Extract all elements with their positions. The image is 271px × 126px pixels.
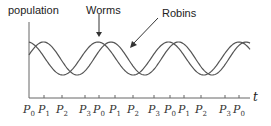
x-tick-label: P3 — [79, 103, 91, 118]
worms-arrowhead — [96, 32, 102, 37]
x-tick-label: P0 — [164, 103, 176, 118]
x-tick-label: P0 — [93, 103, 105, 118]
x-tick-label: P3 — [219, 103, 231, 118]
x-tick-label: P1 — [38, 103, 50, 118]
x-tick-label: P0 — [233, 103, 245, 118]
robins-arrow — [133, 18, 158, 44]
predator-prey-diagram: population Worms Robins t P0P1P2P3P0P1P2… — [0, 0, 271, 126]
worms-label: Worms — [86, 4, 121, 16]
x-tick-label: P3 — [148, 103, 160, 118]
x-tick-label: P2 — [127, 103, 139, 118]
robins-curve — [29, 42, 250, 75]
robins-label: Robins — [162, 7, 196, 19]
y-axis-label: population — [8, 4, 59, 16]
x-tick-label: P2 — [195, 103, 207, 118]
robins-arrowhead — [130, 41, 137, 48]
worms-curve — [29, 42, 250, 75]
x-tick-label: P1 — [178, 103, 190, 118]
x-tick-label: P0 — [23, 103, 35, 118]
x-tick-label: P1 — [109, 103, 121, 118]
x-tick-label: P2 — [56, 103, 68, 118]
x-axis-label: t — [253, 90, 258, 104]
